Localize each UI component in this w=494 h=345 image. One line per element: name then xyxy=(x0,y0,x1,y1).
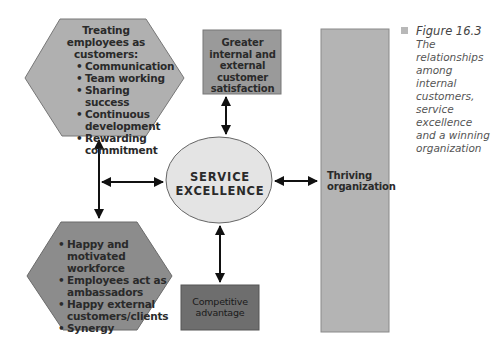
thriving-organization-label: Thriving organization xyxy=(327,170,389,192)
competitive-advantage-label: Competitive advantage xyxy=(181,296,259,318)
treating-employees-list: Communication Team working Sharing succe… xyxy=(76,60,168,156)
satisfaction-label: Greater internal and external customer s… xyxy=(204,37,281,95)
caption-square-bullet-icon xyxy=(401,27,408,34)
service-excellence-label: SERVICE EXCELLENCE xyxy=(170,170,270,198)
caption-body: Figure 16.3 The relationships among inte… xyxy=(416,25,494,155)
treating-employees-text: Treating employees as customers: Communi… xyxy=(52,24,160,156)
list-item: Happy external customers/clients xyxy=(58,298,176,322)
figure-label: Figure 16.3 xyxy=(416,25,494,38)
service-excellence-line1: SERVICE xyxy=(170,170,270,184)
list-item: Team working xyxy=(76,72,168,84)
list-item: Happy and motivated workforce xyxy=(58,238,176,274)
outcomes-text: Happy and motivated workforce Employees … xyxy=(58,238,188,334)
figure-description: The relationships among internal custome… xyxy=(416,38,494,155)
figure-caption: Figure 16.3 The relationships among inte… xyxy=(401,25,494,155)
outcomes-list: Happy and motivated workforce Employees … xyxy=(58,238,176,334)
list-item: Communication xyxy=(76,60,168,72)
list-item: Synergy xyxy=(58,322,176,334)
list-item: Continuous development xyxy=(76,108,168,132)
list-item: Rewarding commitment xyxy=(76,132,168,156)
service-excellence-line2: EXCELLENCE xyxy=(170,184,270,198)
list-item: Sharing success xyxy=(76,84,168,108)
list-item: Employees act as ambassadors xyxy=(58,274,176,298)
treating-employees-title: Treating employees as customers: xyxy=(52,24,160,60)
